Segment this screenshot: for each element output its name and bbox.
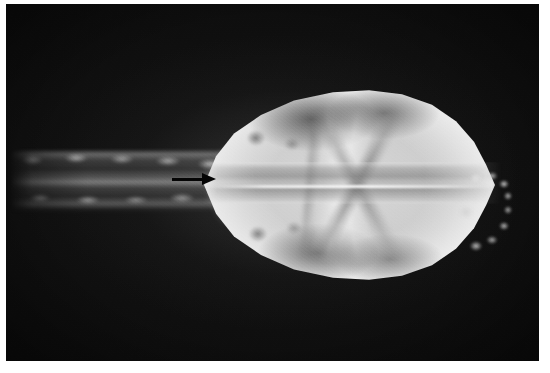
nasal-palatal-band — [202, 162, 502, 204]
incisors-and-cheek-teeth — [458, 166, 520, 268]
arrow-shaft — [172, 178, 205, 181]
image-caption — [0, 0, 1, 1]
radiograph-page — [0, 0, 550, 373]
arrow-head — [202, 173, 216, 185]
nasal-septum-midline — [206, 185, 496, 188]
annotation-arrow-icon — [172, 172, 218, 188]
radiograph-plate — [6, 4, 539, 361]
